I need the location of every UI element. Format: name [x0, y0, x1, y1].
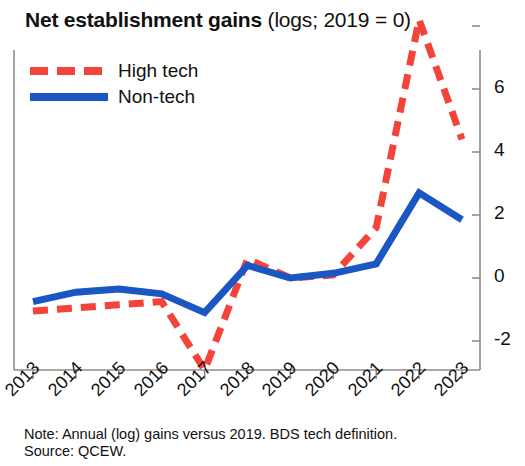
series-line-high-tech — [33, 20, 462, 370]
footnote-source: Source: QCEW. — [24, 443, 397, 460]
y-axis-tick-label: 0 — [494, 265, 505, 287]
y-axis-tick-label: 2 — [494, 202, 505, 224]
y-axis-tick-label: -2 — [494, 328, 511, 350]
chart-footnote: Note: Annual (log) gains versus 2019. BD… — [24, 426, 397, 460]
series-line-non-tech — [33, 193, 462, 313]
y-axis-ticks — [472, 26, 480, 341]
y-axis-tick-label: 6 — [494, 76, 505, 98]
chart-series-layer — [33, 20, 462, 370]
y-axis-tick-label: 4 — [494, 139, 505, 161]
footnote-note: Note: Annual (log) gains versus 2019. BD… — [24, 426, 397, 443]
